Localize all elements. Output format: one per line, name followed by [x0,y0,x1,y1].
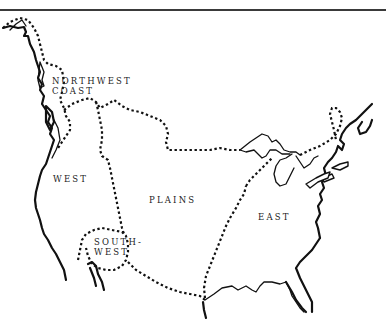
region-map: NORTHWEST COAST WEST PLAINS SOUTH- WEST … [0,0,386,332]
atlantic-coastline [316,104,372,238]
region-label-southwest: SOUTH- WEST [94,237,143,257]
lake-superior-south [240,150,290,158]
region-label-east: EAST [258,212,291,222]
border-west-plains [96,102,124,234]
pacific-coastline [3,26,66,280]
region-label-plains: PLAINS [149,195,196,205]
florida-east-coast [296,238,320,312]
west-line: WEST [94,247,143,257]
region-label-west: WEST [53,174,88,184]
lake-michigan [274,154,294,186]
south-line: SOUTH- [94,237,143,247]
border-north-plains [64,98,240,150]
rio-grande-mouth [203,302,206,318]
northwest-line: NORTHWEST [52,76,132,86]
coast-line: COAST [52,86,132,96]
border-plains-east [204,186,246,298]
lake-ontario [332,162,348,170]
gulf-coast-west [90,268,96,286]
border-southwest-south [128,262,205,300]
region-label-northwest-coast: NORTHWEST COAST [52,76,132,96]
border-northeast [300,108,342,155]
map-outline [0,0,386,332]
lake-huron [296,156,318,168]
florida-west-coast [286,282,306,312]
new-england-hook [358,120,372,134]
border-east-lakes [246,158,272,186]
